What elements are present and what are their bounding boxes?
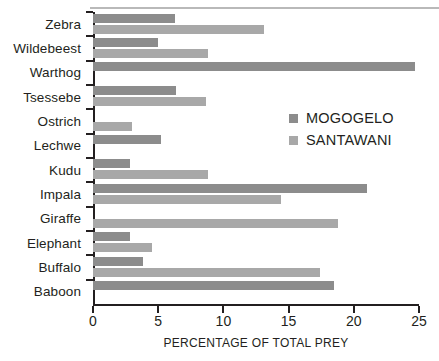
bar-santawani (93, 122, 132, 131)
x-axis-tick (92, 306, 94, 313)
bar-mogogelo (93, 86, 176, 95)
x-axis-tick (222, 306, 224, 313)
bar-mogogelo (93, 62, 415, 71)
bar-mogogelo (93, 14, 175, 23)
x-axis-tick (157, 306, 159, 313)
x-axis-tick (418, 306, 420, 313)
category-label: Giraffe (0, 207, 88, 231)
bar-santawani (93, 25, 264, 34)
y-axis-tick (86, 108, 93, 110)
category-label: Kudu (0, 158, 88, 182)
bar-santawani (93, 195, 281, 204)
x-axis-tick-label: 20 (346, 313, 362, 329)
x-axis-tick (353, 306, 355, 313)
x-axis-tick-label: 5 (154, 313, 162, 329)
category-label: Elephant (0, 231, 88, 255)
y-axis-tick (86, 230, 93, 232)
category-label: Lechwe (0, 134, 88, 158)
bar-row (93, 12, 419, 36)
bar-santawani (93, 219, 338, 228)
bar-row (93, 207, 419, 231)
category-label: Impala (0, 182, 88, 206)
legend-swatch-icon (289, 114, 298, 123)
bar-santawani (93, 170, 208, 179)
x-axis-tick-label: 25 (411, 313, 427, 329)
y-axis-tick (86, 60, 93, 62)
bar-row (93, 231, 419, 255)
x-axis-tick-label: 0 (89, 313, 97, 329)
y-axis-tick (86, 181, 93, 183)
legend-label: SANTAWANI (306, 132, 392, 148)
legend-item: SANTAWANI (289, 132, 394, 148)
top-divider-rule (90, 7, 439, 9)
bar-mogogelo (93, 159, 130, 168)
y-axis-tick (86, 206, 93, 208)
x-axis-tick-label: 10 (216, 313, 232, 329)
legend-item: MOGOGELO (289, 110, 394, 126)
bar-row (93, 255, 419, 279)
y-axis-tick (86, 279, 93, 281)
bar-mogogelo (93, 257, 143, 266)
category-label: Tsessebe (0, 85, 88, 109)
y-axis-tick (86, 133, 93, 135)
bar-santawani (93, 97, 206, 106)
y-axis-tick (86, 11, 93, 13)
y-axis-tick (86, 35, 93, 37)
x-axis-ticks: 0510152025 (93, 306, 419, 336)
bar-row (93, 36, 419, 60)
bar-rows (93, 12, 419, 304)
category-axis-labels: ZebraWildebeestWarthogTsessebeOstrichLec… (0, 12, 88, 304)
category-label: Wildebeest (0, 36, 88, 60)
bar-mogogelo (93, 184, 367, 193)
bar-santawani (93, 49, 208, 58)
category-label: Baboon (0, 280, 88, 304)
chart-legend: MOGOGELOSANTAWANI (289, 110, 394, 154)
bar-row (93, 158, 419, 182)
bar-santawani (93, 243, 152, 252)
y-axis-tick (86, 84, 93, 86)
bar-row (93, 61, 419, 85)
legend-label: MOGOGELO (306, 110, 394, 126)
category-label: Zebra (0, 12, 88, 36)
bar-row (93, 85, 419, 109)
plot-area (93, 12, 419, 304)
bar-mogogelo (93, 135, 161, 144)
y-axis-tick (86, 254, 93, 256)
bar-mogogelo (93, 38, 158, 47)
category-label: Buffalo (0, 255, 88, 279)
category-label: Warthog (0, 61, 88, 85)
x-axis-title: PERCENTAGE OF TOTAL PREY (93, 336, 419, 350)
bar-mogogelo (93, 281, 334, 290)
bar-row (93, 182, 419, 206)
bar-santawani (93, 268, 320, 277)
y-axis-tick (86, 157, 93, 159)
bar-chart-figure: ZebraWildebeestWarthogTsessebeOstrichLec… (0, 0, 439, 361)
x-axis-tick-label: 15 (281, 313, 297, 329)
legend-swatch-icon (289, 136, 298, 145)
x-axis-tick (288, 306, 290, 313)
bar-row (93, 280, 419, 304)
category-label: Ostrich (0, 109, 88, 133)
bar-mogogelo (93, 232, 130, 241)
